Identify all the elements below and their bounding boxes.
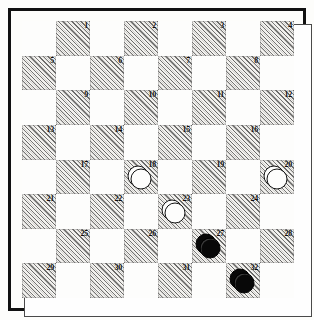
square-number-label: 4: [288, 21, 292, 30]
black-king-on-32[interactable]: [232, 270, 255, 293]
board-square-18[interactable]: 18: [124, 160, 158, 195]
draughts-board[interactable]: 1234567891011121314151617181920212223242…: [22, 21, 294, 298]
board-square-12[interactable]: 12: [260, 90, 294, 125]
square-number-label: 22: [115, 194, 122, 203]
square-number-label: 27: [217, 229, 224, 238]
board-square-light-r7c1[interactable]: [22, 229, 56, 264]
board-square-7[interactable]: 7: [158, 56, 192, 91]
board-square-light-r6c2[interactable]: [56, 194, 90, 229]
square-number-label: 15: [183, 125, 190, 134]
board-square-15[interactable]: 15: [158, 125, 192, 160]
square-number-label: 29: [47, 263, 54, 272]
board-square-1[interactable]: 1: [56, 21, 90, 56]
board-square-light-r8c8[interactable]: [260, 263, 294, 298]
square-number-label: 19: [217, 160, 224, 169]
board-square-light-r1c3[interactable]: [90, 21, 124, 56]
board-square-3[interactable]: 3: [192, 21, 226, 56]
board-square-2[interactable]: 2: [124, 21, 158, 56]
board-square-11[interactable]: 11: [192, 90, 226, 125]
board-square-23[interactable]: 23: [158, 194, 192, 229]
square-number-label: 3: [220, 21, 224, 30]
square-number-label: 6: [118, 56, 122, 65]
board-square-6[interactable]: 6: [90, 56, 124, 91]
board-square-19[interactable]: 19: [192, 160, 226, 195]
board-square-31[interactable]: 31: [158, 263, 192, 298]
board-square-16[interactable]: 16: [226, 125, 260, 160]
board-square-light-r2c2[interactable]: [56, 56, 90, 91]
board-square-25[interactable]: 25: [56, 229, 90, 264]
board-square-9[interactable]: 9: [56, 90, 90, 125]
board-square-light-r5c5[interactable]: [158, 160, 192, 195]
board-square-28[interactable]: 28: [260, 229, 294, 264]
board-square-13[interactable]: 13: [22, 125, 56, 160]
board-square-light-r4c6[interactable]: [192, 125, 226, 160]
piece-disc-upper: [200, 238, 221, 259]
square-number-label: 14: [115, 125, 122, 134]
board-square-light-r4c4[interactable]: [124, 125, 158, 160]
piece-disc-upper: [234, 272, 255, 293]
board-square-light-r6c6[interactable]: [192, 194, 226, 229]
board-square-light-r6c4[interactable]: [124, 194, 158, 229]
piece-disc-upper: [165, 203, 186, 224]
board-square-10[interactable]: 10: [124, 90, 158, 125]
board-square-light-r4c2[interactable]: [56, 125, 90, 160]
square-number-label: 7: [186, 56, 190, 65]
white-king-on-23[interactable]: [164, 201, 187, 224]
board-square-14[interactable]: 14: [90, 125, 124, 160]
board-square-21[interactable]: 21: [22, 194, 56, 229]
square-number-label: 28: [285, 229, 292, 238]
square-number-label: 32: [251, 263, 258, 272]
board-square-light-r1c7[interactable]: [226, 21, 260, 56]
square-number-label: 30: [115, 263, 122, 272]
board-square-light-r6c8[interactable]: [260, 194, 294, 229]
square-number-label: 25: [81, 229, 88, 238]
white-king-on-18[interactable]: [130, 166, 153, 189]
black-king-on-27[interactable]: [198, 236, 221, 259]
square-number-label: 24: [251, 194, 258, 203]
board-square-4[interactable]: 4: [260, 21, 294, 56]
square-number-label: 11: [217, 90, 224, 99]
board-square-light-r3c7[interactable]: [226, 90, 260, 125]
board-square-light-r8c2[interactable]: [56, 263, 90, 298]
board-square-light-r2c4[interactable]: [124, 56, 158, 91]
board-square-light-r8c4[interactable]: [124, 263, 158, 298]
square-number-label: 1: [84, 21, 88, 30]
square-number-label: 17: [81, 160, 88, 169]
board-square-light-r7c5[interactable]: [158, 229, 192, 264]
board-square-light-r3c5[interactable]: [158, 90, 192, 125]
board-square-5[interactable]: 5: [22, 56, 56, 91]
board-square-17[interactable]: 17: [56, 160, 90, 195]
board-square-light-r5c3[interactable]: [90, 160, 124, 195]
board-square-24[interactable]: 24: [226, 194, 260, 229]
board-square-light-r8c6[interactable]: [192, 263, 226, 298]
piece-disc-upper: [267, 168, 288, 189]
board-square-30[interactable]: 30: [90, 263, 124, 298]
board-square-29[interactable]: 29: [22, 263, 56, 298]
square-number-label: 10: [149, 90, 156, 99]
board-square-light-r4c8[interactable]: [260, 125, 294, 160]
board-square-20[interactable]: 20: [260, 160, 294, 195]
board-square-26[interactable]: 26: [124, 229, 158, 264]
square-number-label: 5: [50, 56, 54, 65]
board-square-light-r5c1[interactable]: [22, 160, 56, 195]
board-square-light-r7c7[interactable]: [226, 229, 260, 264]
board-square-light-r7c3[interactable]: [90, 229, 124, 264]
white-king-on-20[interactable]: [266, 166, 289, 189]
square-number-label: 2: [152, 21, 156, 30]
board-square-22[interactable]: 22: [90, 194, 124, 229]
board-square-light-r1c5[interactable]: [158, 21, 192, 56]
square-number-label: 8: [254, 56, 258, 65]
board-square-light-r5c7[interactable]: [226, 160, 260, 195]
board-square-light-r3c1[interactable]: [22, 90, 56, 125]
square-number-label: 16: [251, 125, 258, 134]
board-square-light-r2c8[interactable]: [260, 56, 294, 91]
diagram-page: 1234567891011121314151617181920212223242…: [0, 0, 314, 320]
board-square-light-r2c6[interactable]: [192, 56, 226, 91]
square-number-label: 9: [84, 90, 88, 99]
board-square-32[interactable]: 32: [226, 263, 260, 298]
board-square-8[interactable]: 8: [226, 56, 260, 91]
board-square-light-r3c3[interactable]: [90, 90, 124, 125]
board-square-light-r1c1[interactable]: [22, 21, 56, 56]
square-number-label: 31: [183, 263, 190, 272]
board-square-27[interactable]: 27: [192, 229, 226, 264]
